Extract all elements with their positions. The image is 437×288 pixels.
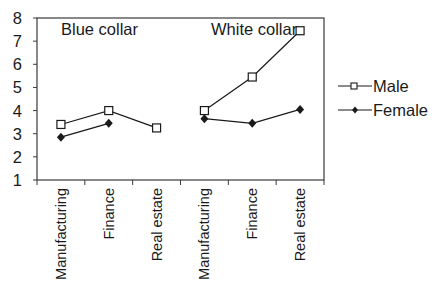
- open-square-marker: [200, 107, 208, 115]
- open-square-marker: [248, 73, 256, 81]
- x-tick-label: Real estate: [292, 188, 308, 261]
- x-tick-label: Manufacturing: [196, 188, 212, 280]
- x-tick-label: Real estate: [149, 188, 165, 261]
- x-tick-label: Finance: [244, 188, 260, 240]
- filled-diamond-icon: [352, 107, 358, 114]
- group-label-blue-collar: Blue collar: [61, 20, 139, 38]
- x-tick-label: Manufacturing: [53, 188, 69, 280]
- y-axis: 12345678: [13, 9, 37, 189]
- x-axis: ManufacturingFinanceReal estateManufactu…: [37, 180, 324, 280]
- filled-diamond-marker: [296, 105, 304, 114]
- filled-diamond-marker: [200, 114, 208, 123]
- open-square-marker: [153, 124, 161, 132]
- series-layer: [57, 27, 304, 142]
- filled-diamond-marker: [248, 119, 256, 128]
- open-square-marker: [57, 120, 65, 128]
- line-chart: 12345678 ManufacturingFinanceReal estate…: [0, 0, 437, 288]
- y-tick-label: 4: [13, 102, 22, 120]
- legend: MaleFemale: [338, 77, 428, 119]
- y-tick-label: 3: [13, 125, 22, 143]
- open-square-marker: [105, 107, 113, 115]
- x-tick-label: Finance: [101, 188, 117, 240]
- y-tick-label: 6: [13, 55, 22, 73]
- series-female: [57, 105, 304, 142]
- legend-item-male: Male: [338, 77, 409, 95]
- y-tick-label: 1: [13, 171, 22, 189]
- legend-label: Female: [373, 101, 428, 119]
- group-label-white-collar: White collar: [211, 20, 298, 38]
- y-tick-label: 7: [13, 32, 22, 50]
- y-tick-label: 5: [13, 78, 22, 96]
- series-male: [57, 27, 304, 132]
- legend-item-female: Female: [338, 101, 428, 119]
- open-square-icon: [351, 83, 357, 89]
- filled-diamond-marker: [105, 119, 113, 128]
- filled-diamond-marker: [57, 133, 65, 142]
- plot-frame: [37, 18, 324, 180]
- y-tick-label: 2: [13, 148, 22, 166]
- y-tick-label: 8: [13, 9, 22, 27]
- open-square-marker: [296, 27, 304, 35]
- legend-label: Male: [373, 77, 409, 95]
